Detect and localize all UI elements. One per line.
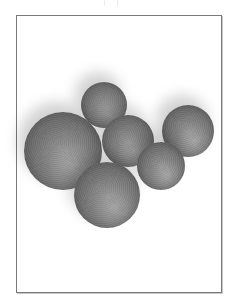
top-edge-mark [104, 0, 118, 6]
sphere-lower-right [137, 142, 185, 190]
sphere-bottom [74, 162, 140, 228]
